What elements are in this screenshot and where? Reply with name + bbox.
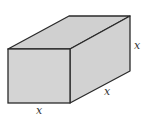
label-side-right: x xyxy=(134,40,140,51)
label-side-bottom: x xyxy=(104,86,110,97)
front-face xyxy=(8,49,70,103)
prism-diagram xyxy=(0,0,149,118)
label-front-bottom: x xyxy=(36,105,42,116)
